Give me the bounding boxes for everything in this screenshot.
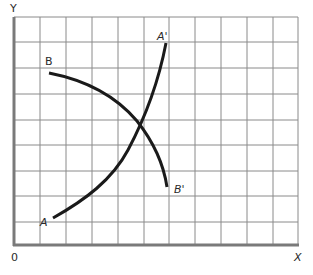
grid: [14, 17, 298, 245]
x-axis-label: X: [294, 252, 302, 263]
curve-aa-prime: [53, 43, 166, 218]
y-axis-label: Y: [10, 3, 17, 14]
curve-label-a: A: [40, 217, 48, 228]
curve-label-b: B: [45, 56, 53, 67]
curve-bb-prime: [49, 73, 167, 187]
curve-label-b-prime: B': [174, 184, 185, 195]
curve-label-a-prime: A': [157, 31, 168, 42]
origin-label: 0: [11, 252, 18, 263]
